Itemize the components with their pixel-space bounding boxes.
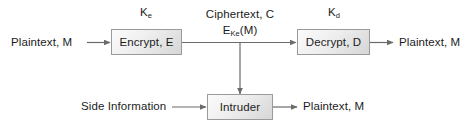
encryption-flow-diagram: Ke Kd Ciphertext, C EKe(M) Plaintext, M …: [0, 0, 474, 134]
side-information-label: Side Information: [81, 100, 166, 112]
node-encrypt[interactable]: Encrypt, E: [111, 29, 182, 55]
node-decrypt-label: Decrypt, D: [306, 36, 361, 48]
node-encrypt-label: Encrypt, E: [119, 36, 173, 48]
node-intruder-label: Intruder: [220, 101, 260, 113]
decryption-key-subscript: d: [336, 11, 340, 20]
plaintext-output-label: Plaintext, M: [399, 36, 460, 48]
node-decrypt[interactable]: Decrypt, D: [297, 29, 370, 55]
ciphertext-message-arg: (M): [240, 24, 258, 36]
plaintext-intruder-output-label: Plaintext, M: [303, 100, 364, 112]
decryption-key-label: Kd: [328, 6, 340, 18]
ciphertext-label-line1: Ciphertext, C: [206, 8, 274, 20]
ciphertext-e-symbol: E: [223, 24, 231, 36]
decryption-key-symbol: K: [328, 6, 336, 18]
plaintext-input-label: Plaintext, M: [11, 36, 72, 48]
ciphertext-key-subscript: Ke: [230, 29, 239, 38]
encryption-key-label: Ke: [140, 6, 152, 18]
encryption-key-symbol: K: [140, 6, 148, 18]
ciphertext-label-line2: EKe(M): [223, 24, 258, 36]
node-intruder[interactable]: Intruder: [207, 94, 273, 120]
encryption-key-subscript: e: [148, 11, 152, 20]
